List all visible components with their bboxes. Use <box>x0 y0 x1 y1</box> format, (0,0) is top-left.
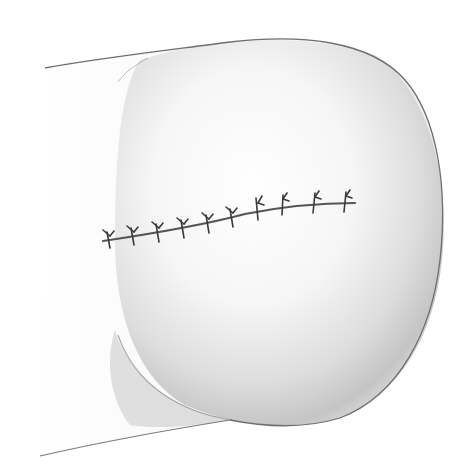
dome-shading <box>115 40 444 425</box>
medical-illustration <box>0 0 473 474</box>
